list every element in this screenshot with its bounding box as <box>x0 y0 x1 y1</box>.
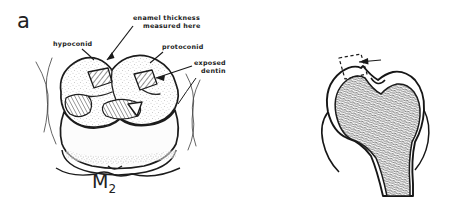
label-line-1: enamel thickness <box>133 14 200 22</box>
figure-two-panel-molar: a enamel thicknessmeasured here hypoconi… <box>0 0 470 212</box>
panel-a-occlusal: a enamel thicknessmeasured here hypoconi… <box>0 0 235 212</box>
panel-b-cross-section: b enamel thickness <box>235 0 470 212</box>
wear-facet-hypoconid <box>65 94 92 116</box>
cross-section-drawing <box>235 0 470 212</box>
leader-enamel-thickness-a <box>107 26 133 60</box>
label-hypoconid: hypoconid <box>53 41 92 49</box>
label-line-1: exposed <box>194 59 226 67</box>
occlusal-drawing <box>0 0 235 212</box>
label-enamel-thickness-measured-here: enamel thicknessmeasured here <box>133 15 201 30</box>
label-line-2: measured here <box>133 23 201 31</box>
label-line-2: dentin <box>194 68 226 76</box>
tooth-id-letter: M <box>92 170 108 192</box>
panel-letter-a: a <box>17 9 30 33</box>
label-exposed-dentin: exposeddentin <box>194 60 226 75</box>
tooth-identifier: M2 <box>92 170 116 196</box>
leader-enamel-thickness-b <box>359 58 381 65</box>
tooth-id-subscript: 2 <box>108 182 116 196</box>
label-protoconid: protoconid <box>162 44 204 52</box>
